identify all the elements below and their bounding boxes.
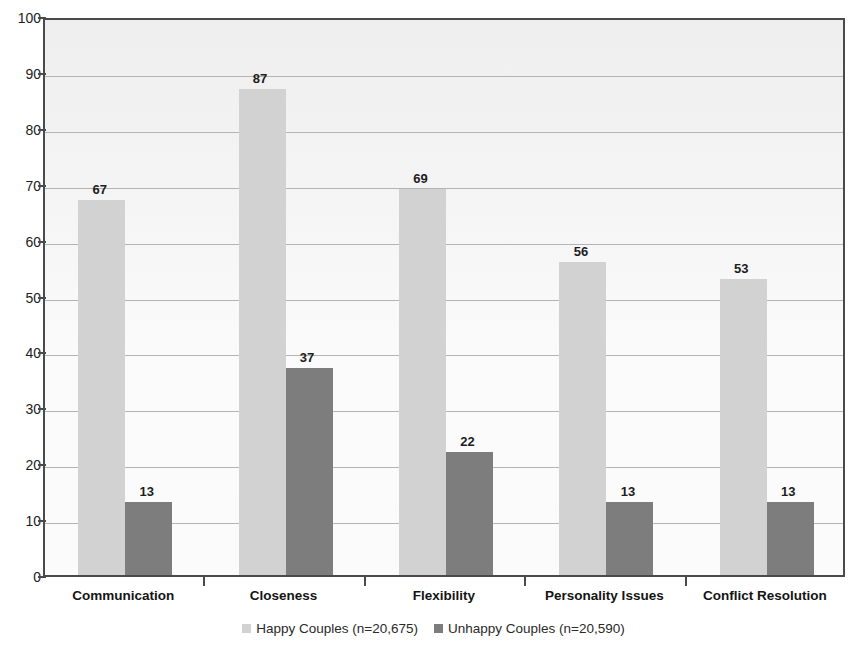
y-axis-tick-mark (38, 520, 46, 522)
x-axis-category-label: Closeness (203, 589, 363, 604)
legend-item[interactable]: Unhappy Couples (n=20,590) (434, 622, 625, 636)
bar (239, 89, 286, 575)
legend-item[interactable]: Happy Couples (n=20,675) (242, 622, 418, 636)
bar-value-label: 53 (704, 262, 779, 275)
bar-value-label: 13 (109, 485, 184, 498)
gridline (45, 76, 843, 77)
y-axis-tick-label: 100 (7, 11, 41, 25)
bar (78, 200, 125, 575)
y-axis-tick-label: 30 (7, 402, 41, 416)
y-axis-tick-label: 50 (7, 291, 41, 305)
bar (606, 502, 653, 575)
y-axis-tick-label: 40 (7, 346, 41, 360)
x-axis-separator-tick (203, 577, 205, 586)
x-axis-category-label: Communication (43, 589, 203, 604)
y-axis-tick-mark (38, 352, 46, 354)
bar (559, 262, 606, 575)
y-axis-tick-mark (38, 241, 46, 243)
legend-swatch-icon (242, 624, 251, 633)
bar (399, 189, 446, 575)
bar-value-label: 13 (751, 485, 826, 498)
y-axis-tick-mark (38, 408, 46, 410)
y-axis-tick-label: 0 (7, 570, 41, 584)
bar-value-label: 67 (62, 183, 137, 196)
legend-swatch-icon (434, 624, 443, 633)
x-axis-category-label: Conflict Resolution (685, 589, 845, 604)
y-axis-tick-mark (38, 297, 46, 299)
y-axis-tick-mark (38, 185, 46, 187)
y-axis-tick-label: 70 (7, 179, 41, 193)
gridline (45, 132, 843, 133)
y-axis-tick-label: 90 (7, 67, 41, 81)
y-axis: 1009080706050403020100 (0, 0, 41, 595)
bar (125, 502, 172, 575)
bar-value-label: 37 (270, 351, 345, 364)
y-axis-tick-mark (38, 73, 46, 75)
y-axis-tick-mark (38, 576, 46, 578)
bar (720, 279, 767, 575)
bar-value-label: 69 (383, 172, 458, 185)
bar-chart: 1009080706050403020100 67138737692256135… (0, 0, 867, 651)
x-axis-separator-tick (524, 577, 526, 586)
x-axis-category-label: Personality Issues (524, 589, 684, 604)
bar-value-label: 56 (543, 245, 618, 258)
x-axis-category-label: Flexibility (364, 589, 524, 604)
y-axis-tick-label: 20 (7, 458, 41, 472)
bar (767, 502, 814, 575)
bar (286, 368, 333, 575)
y-axis-tick-label: 80 (7, 123, 41, 137)
bar-value-label: 22 (430, 435, 505, 448)
bar-value-label: 13 (590, 485, 665, 498)
legend-label: Happy Couples (n=20,675) (256, 622, 418, 636)
bar-value-label: 87 (223, 72, 298, 85)
y-axis-tick-mark (38, 129, 46, 131)
x-axis-separator-tick (364, 577, 366, 586)
x-axis-separator-tick (685, 577, 687, 586)
y-axis-tick-mark (38, 17, 46, 19)
y-axis-tick-mark (38, 464, 46, 466)
legend-label: Unhappy Couples (n=20,590) (448, 622, 625, 636)
chart-legend: Happy Couples (n=20,675)Unhappy Couples … (0, 622, 867, 636)
y-axis-tick-label: 60 (7, 235, 41, 249)
y-axis-tick-label: 10 (7, 514, 41, 528)
bar (446, 452, 493, 575)
